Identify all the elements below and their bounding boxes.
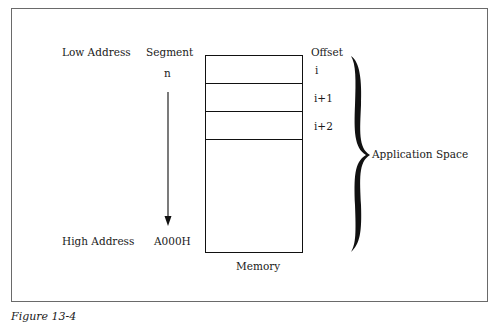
curly-brace-icon [351, 56, 370, 252]
application-space-label: Application Space [372, 149, 468, 160]
down-arrow-icon [165, 92, 172, 226]
figure-caption: Figure 13-4 [11, 310, 76, 322]
diagram-graphics [0, 0, 500, 322]
